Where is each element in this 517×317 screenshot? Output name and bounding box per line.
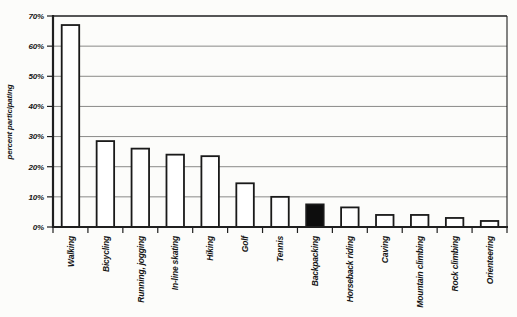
bar — [411, 215, 429, 227]
category-label: Mountain climbing — [415, 235, 425, 308]
category-label: Walking — [66, 235, 76, 267]
y-tick-label: 30% — [29, 132, 44, 141]
category-label: Caving — [380, 235, 390, 263]
bar — [201, 156, 219, 227]
bar — [271, 197, 289, 227]
bar — [62, 25, 80, 227]
y-axis-title: percent participating — [5, 84, 14, 160]
y-tick-label: 20% — [28, 163, 44, 172]
y-tick-label: 10% — [29, 193, 44, 202]
category-label: Horseback riding — [345, 235, 355, 302]
bar-highlighted — [306, 204, 324, 227]
bar — [132, 149, 150, 227]
y-tick-label: 70% — [29, 12, 44, 21]
y-tick-label: 40% — [28, 102, 44, 111]
y-tick-label: 50% — [29, 72, 44, 81]
category-label: Hiking — [205, 235, 215, 261]
category-label: Rock climbing — [450, 235, 460, 292]
scanned-chart-page: 0%10%20%30%40%50%60%70%WalkingBicyclingR… — [0, 0, 517, 317]
bar — [166, 155, 184, 227]
category-label: Orienteering — [485, 235, 495, 284]
category-label: Running, jogging — [136, 235, 146, 303]
category-label: Tennis — [275, 236, 285, 262]
bar-chart-figure: 0%10%20%30%40%50%60%70%WalkingBicyclingR… — [0, 0, 517, 317]
bar — [376, 215, 394, 227]
category-label: In-line skating — [170, 235, 180, 290]
bar — [341, 207, 359, 227]
category-label: Backpacking — [310, 235, 320, 286]
y-tick-label: 60% — [29, 42, 44, 51]
bar — [236, 183, 254, 227]
bar — [97, 141, 115, 227]
category-label: Bicycling — [101, 235, 111, 272]
category-label: Golf — [240, 235, 250, 253]
bar — [446, 218, 464, 227]
bar-chart-svg: 0%10%20%30%40%50%60%70%WalkingBicyclingR… — [0, 0, 517, 317]
y-tick-label: 0% — [33, 223, 44, 232]
